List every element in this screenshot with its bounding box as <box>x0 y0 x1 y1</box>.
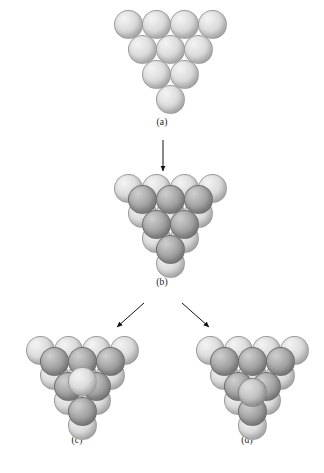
sphere <box>156 85 185 114</box>
sphere <box>266 347 295 376</box>
sphere <box>170 210 199 239</box>
sphere <box>156 235 185 264</box>
panel-a-label: (a) <box>142 117 182 127</box>
sphere <box>40 347 69 376</box>
sphere <box>142 10 171 39</box>
panel-b <box>112 172 242 284</box>
panel-a <box>112 8 242 120</box>
arrow-b-to-d <box>182 303 209 327</box>
sphere <box>238 378 267 407</box>
panel-c <box>24 334 154 446</box>
sphere <box>198 10 227 39</box>
arrow-b-to-c <box>117 303 144 327</box>
close-packing-figure: (a) (b) (c) (d) <box>0 0 324 473</box>
panel-d <box>194 334 324 446</box>
sphere <box>156 35 185 64</box>
sphere <box>68 397 97 426</box>
sphere <box>142 210 171 239</box>
sphere <box>68 367 97 396</box>
sphere <box>238 347 267 376</box>
sphere <box>156 185 185 214</box>
sphere <box>142 60 171 89</box>
sphere <box>96 347 125 376</box>
sphere <box>210 347 239 376</box>
sphere <box>184 35 213 64</box>
sphere <box>114 10 143 39</box>
sphere <box>170 10 199 39</box>
sphere <box>128 185 157 214</box>
sphere <box>128 35 157 64</box>
sphere <box>170 60 199 89</box>
sphere <box>184 185 213 214</box>
panel-b-label: (b) <box>142 277 182 287</box>
